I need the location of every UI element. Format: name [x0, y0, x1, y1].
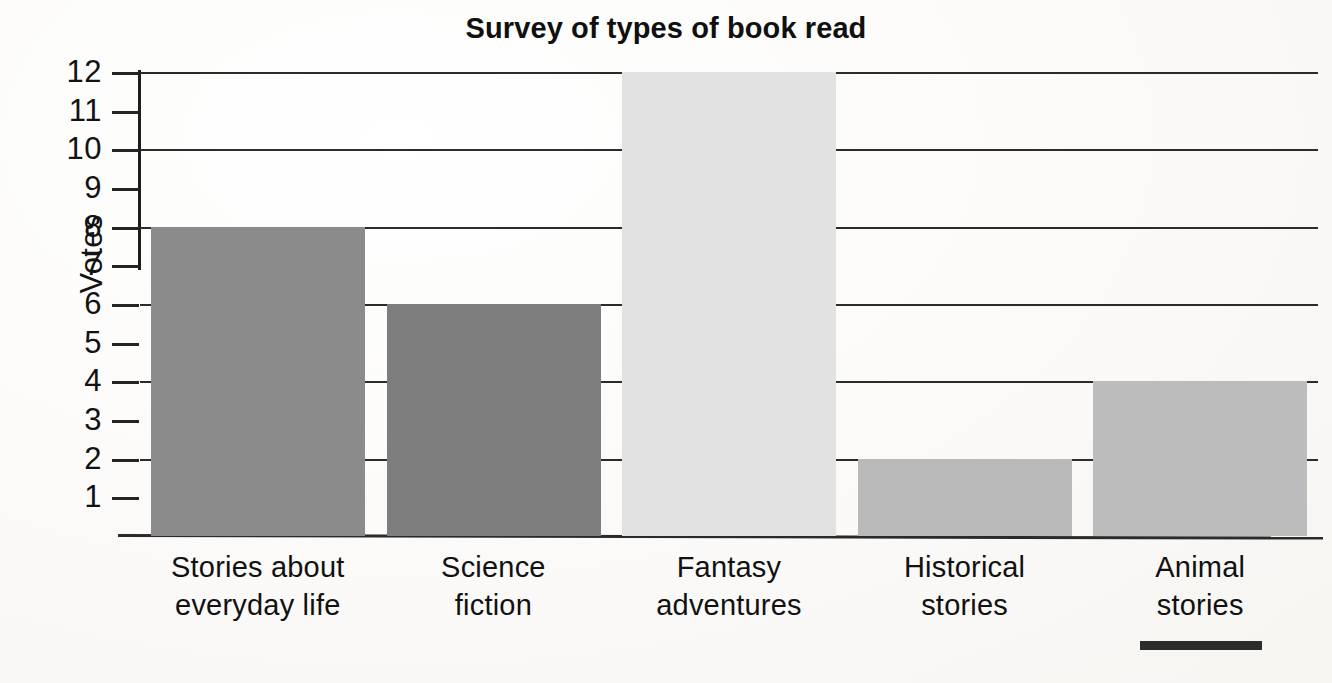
y-tick-mark	[112, 343, 139, 346]
y-tick-label: 9	[40, 172, 102, 203]
y-tick-label: 6	[40, 288, 102, 319]
chart-figure: Survey of types of book read Votes 12111…	[0, 0, 1332, 683]
y-tick-label: 7	[40, 249, 102, 280]
y-tick-label: 11	[40, 95, 102, 126]
category-label-line: Fantasy	[597, 548, 861, 586]
category-label: Animalstories	[1068, 548, 1332, 624]
y-tick-mark	[112, 497, 139, 500]
y-tick-label: 12	[40, 56, 102, 87]
bar[interactable]	[1093, 381, 1307, 536]
y-tick-mark	[112, 420, 139, 423]
y-tick-mark	[112, 304, 139, 307]
y-tick-label: 5	[40, 327, 102, 358]
y-tick-mark	[112, 459, 139, 462]
y-tick-mark	[112, 381, 139, 384]
category-label-line: stories	[833, 586, 1097, 624]
category-label-line: Science	[362, 548, 626, 586]
y-tick-label: 1	[40, 481, 102, 512]
bar[interactable]	[622, 72, 836, 536]
bar[interactable]	[151, 227, 365, 536]
bar[interactable]	[387, 304, 601, 536]
y-tick-mark	[112, 72, 139, 75]
category-label: Historicalstories	[833, 548, 1097, 624]
category-label-line: adventures	[597, 586, 861, 624]
chart-title: Survey of types of book read	[0, 8, 1332, 48]
category-label-line: everyday life	[126, 586, 390, 624]
category-label-line: Historical	[833, 548, 1097, 586]
y-tick-mark	[112, 227, 139, 230]
y-tick-mark	[112, 111, 139, 114]
scan-artifact-mark	[1140, 641, 1262, 650]
category-label-line: Animal	[1068, 548, 1332, 586]
category-label-line: stories	[1068, 586, 1332, 624]
category-label-line: Stories about	[126, 548, 390, 586]
category-label-line: fiction	[362, 586, 626, 624]
bar[interactable]	[858, 459, 1072, 536]
category-label: Stories abouteveryday life	[126, 548, 390, 624]
y-tick-label: 8	[40, 211, 102, 242]
category-label: Sciencefiction	[362, 548, 626, 624]
category-label: Fantasyadventures	[597, 548, 861, 624]
plot-area	[140, 72, 1318, 536]
y-tick-label: 2	[40, 443, 102, 474]
y-tick-label: 3	[40, 404, 102, 435]
y-tick-label: 4	[40, 365, 102, 396]
y-tick-label: 10	[40, 133, 102, 164]
y-tick-mark	[112, 265, 139, 268]
y-tick-mark	[112, 188, 139, 191]
y-tick-mark	[112, 149, 139, 152]
